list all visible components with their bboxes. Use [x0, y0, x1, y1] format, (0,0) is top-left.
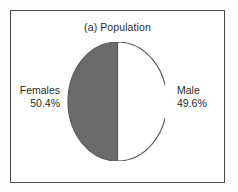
pie-chart — [66, 42, 165, 161]
pie-slice-male[interactable] — [118, 42, 166, 161]
pie-slice-females[interactable] — [68, 42, 118, 161]
figure-container: (a) Population Females 50.4% Male 49.6% — [0, 0, 238, 192]
pie-label-male: Male 49.6% — [177, 84, 223, 109]
pie-label-females-name: Females — [16, 84, 60, 97]
pie-label-females-percent: 50.4% — [16, 97, 60, 110]
pie-label-male-name: Male — [177, 84, 223, 97]
pie-chart-svg — [66, 42, 165, 161]
pie-label-male-percent: 49.6% — [177, 97, 223, 110]
pie-label-females: Females 50.4% — [16, 84, 60, 109]
chart-title: (a) Population — [10, 21, 225, 33]
